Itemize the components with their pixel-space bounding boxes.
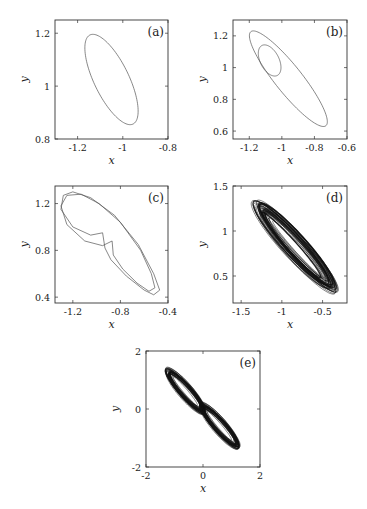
plot-area-c <box>61 192 160 295</box>
y-axis-label: y <box>18 76 31 84</box>
y-tick-label: 2 <box>135 346 141 357</box>
x-tick-label: -1.2 <box>68 142 86 153</box>
x-tick-label: -1.5 <box>232 306 250 317</box>
x-tick-label: -1 <box>277 306 286 317</box>
y-axis-label: y <box>196 241 209 249</box>
series-inner-loop <box>258 45 281 76</box>
panel-a: -1.2-1-0.80.811.2xy(a) <box>18 20 177 167</box>
x-tick-label: -0.5 <box>313 306 331 317</box>
panel-b: -1.2-1-0.8-0.60.60.811.2xy(b) <box>196 20 356 167</box>
x-axis-label: x <box>287 154 294 167</box>
x-tick-label: -2 <box>141 470 150 481</box>
panel-d: -1.5-1-0.50.511.5xy(d) <box>196 181 347 332</box>
x-tick-label: -1 <box>277 142 286 153</box>
y-tick-label: 0.8 <box>35 134 50 145</box>
y-tick-label: 0.8 <box>213 94 228 105</box>
x-tick-label: -0.6 <box>338 142 356 153</box>
y-tick-label: 1 <box>222 62 228 73</box>
x-axis-label: x <box>287 318 294 331</box>
y-tick-label: -2 <box>132 462 141 473</box>
plot-area-a <box>85 34 138 124</box>
x-tick-label: -1 <box>118 142 127 153</box>
x-tick-label: 0 <box>200 470 206 481</box>
x-tick-label: 2 <box>257 470 263 481</box>
y-tick-label: 1.2 <box>35 28 50 39</box>
panel-label-a: (a) <box>147 25 164 39</box>
y-tick-label: 0.6 <box>213 126 228 137</box>
y-tick-label: 1.2 <box>213 30 228 41</box>
series-orbit-1 <box>61 192 160 295</box>
plot-area-d <box>251 200 338 294</box>
x-tick-label: -0.8 <box>159 142 177 153</box>
y-tick-label: 1 <box>222 226 228 237</box>
panel-label-b: (b) <box>326 25 343 39</box>
panel-c: -1.2-0.8-0.40.40.81.2xy(c) <box>18 186 177 331</box>
x-tick-label: -1.2 <box>240 142 258 153</box>
y-axis-label: y <box>18 241 31 249</box>
x-tick-label: -0.8 <box>305 142 323 153</box>
panel-label-d: (d) <box>326 191 343 205</box>
plot-area-e <box>165 367 240 449</box>
series-lobe-lower-right <box>199 402 240 450</box>
x-axis-label: x <box>200 482 207 495</box>
x-tick-label: -0.4 <box>159 306 177 317</box>
plot-area-b <box>249 31 327 127</box>
series-outer-loop <box>249 31 327 127</box>
x-axis-label: x <box>108 154 115 167</box>
y-tick-label: 1.5 <box>213 181 228 192</box>
figure-canvas: -1.2-1-0.80.811.2xy(a)-1.2-1-0.8-0.60.60… <box>0 0 367 509</box>
y-axis-label: y <box>109 405 122 413</box>
y-tick-label: 1.2 <box>35 198 50 209</box>
y-tick-label: 1 <box>44 81 50 92</box>
y-tick-label: 0 <box>135 404 141 415</box>
y-tick-label: 0.5 <box>213 271 228 282</box>
panel-label-e: (e) <box>240 356 256 370</box>
y-tick-label: 0.8 <box>35 245 50 256</box>
panel-label-c: (c) <box>148 191 164 205</box>
x-tick-label: -0.8 <box>111 306 129 317</box>
series-attractor <box>251 200 338 294</box>
series-orbit <box>85 34 138 124</box>
x-tick-label: -1.2 <box>64 306 82 317</box>
y-tick-label: 0.4 <box>35 292 50 303</box>
series-orbit-2 <box>61 194 155 291</box>
panel-e: -202-202xy(e) <box>109 346 263 496</box>
x-axis-label: x <box>108 318 115 331</box>
y-axis-label: y <box>196 76 209 84</box>
